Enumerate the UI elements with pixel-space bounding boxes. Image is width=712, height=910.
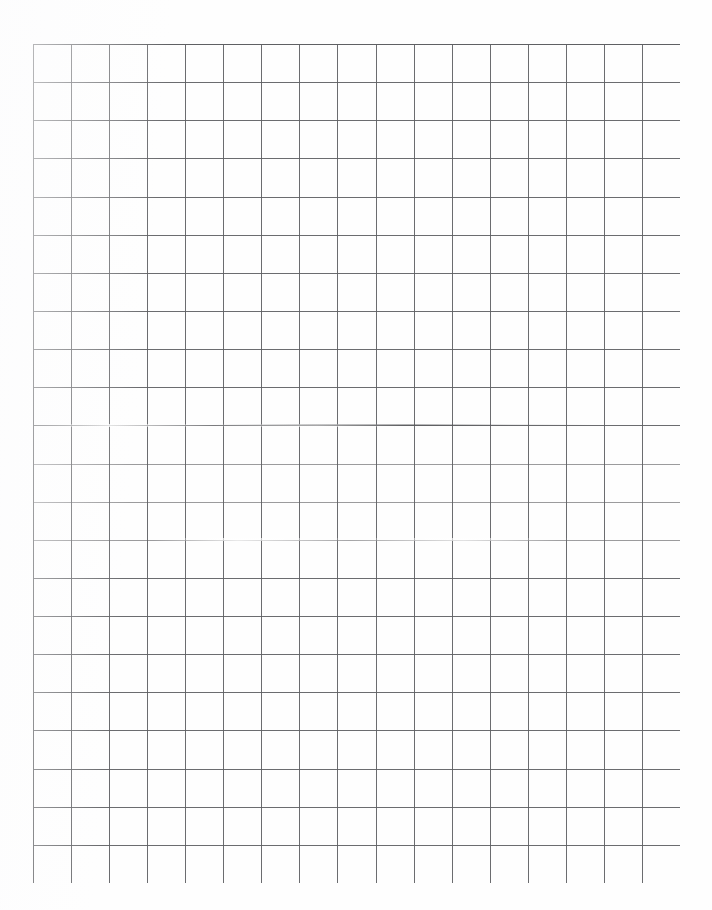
page-root: Blank grid paper sheet (0, 0, 712, 910)
graph-paper-grid (33, 44, 680, 883)
grid-lines-svg (33, 44, 680, 883)
